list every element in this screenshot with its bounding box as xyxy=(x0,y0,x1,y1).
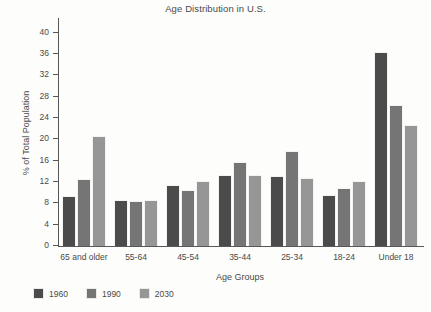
y-axis-tick-label: 32 xyxy=(40,68,49,81)
legend-swatch-icon xyxy=(86,288,97,299)
legend-label: 1990 xyxy=(102,289,121,299)
legend-item[interactable]: 1990 xyxy=(86,288,121,299)
bar xyxy=(337,188,351,246)
legend-label: 2030 xyxy=(155,289,174,299)
bar xyxy=(300,178,314,246)
y-axis-tick-label: 12 xyxy=(40,175,49,188)
legend-swatch-icon xyxy=(33,288,44,299)
y-axis-tick-label: 28 xyxy=(40,90,49,103)
y-axis-tick-label: 4 xyxy=(44,218,49,231)
legend-label: 1960 xyxy=(49,289,68,299)
y-axis-title: % of Total Population xyxy=(21,63,31,203)
bar xyxy=(233,162,247,246)
bar-chart: Age Distribution in U.S. % of Total Popu… xyxy=(0,0,431,312)
bar xyxy=(92,136,106,246)
bar xyxy=(62,196,76,246)
y-axis-tick-label: 36 xyxy=(40,47,49,60)
bar xyxy=(352,181,366,246)
x-axis-tick-label: 55-64 xyxy=(110,252,162,262)
x-axis-title: Age Groups xyxy=(58,272,422,282)
legend-item[interactable]: 1960 xyxy=(33,288,68,299)
y-axis-tick-label: 24 xyxy=(40,111,49,124)
bar-group xyxy=(166,22,210,246)
legend-item[interactable]: 2030 xyxy=(139,288,174,299)
plot-area xyxy=(58,22,422,246)
x-axis-tick-label: 25-34 xyxy=(266,252,318,262)
bar-group xyxy=(270,22,314,246)
x-axis-tick-label: 18-24 xyxy=(318,252,370,262)
bar xyxy=(389,105,403,246)
x-axis-tick-label: 35-44 xyxy=(214,252,266,262)
bar xyxy=(196,181,210,246)
bar-group xyxy=(322,22,366,246)
y-axis-tick-label: 0 xyxy=(44,239,49,252)
legend-swatch-icon xyxy=(139,288,150,299)
bar xyxy=(166,185,180,246)
y-axis-tick-label: 8 xyxy=(44,196,49,209)
bar-group xyxy=(114,22,158,246)
chart-title: Age Distribution in U.S. xyxy=(0,3,431,14)
y-axis-tick-label: 20 xyxy=(40,132,49,145)
bar-group xyxy=(62,22,106,246)
bar-group xyxy=(374,22,418,246)
bar xyxy=(144,200,158,246)
bar xyxy=(374,52,388,246)
bar xyxy=(181,190,195,246)
bar xyxy=(270,176,284,246)
bar xyxy=(285,151,299,246)
y-axis-tick-label: 16 xyxy=(40,154,49,167)
bar xyxy=(248,175,262,246)
bar-group xyxy=(218,22,262,246)
x-axis-line xyxy=(58,246,424,247)
bar xyxy=(218,175,232,246)
bar xyxy=(77,179,91,246)
bar xyxy=(404,125,418,246)
bar xyxy=(114,200,128,246)
chart-legend: 196019902030 xyxy=(33,288,174,299)
bar xyxy=(322,195,336,246)
bar xyxy=(129,201,143,246)
x-axis-tick-label: 45-54 xyxy=(162,252,214,262)
x-axis-tick-label: Under 18 xyxy=(370,252,422,262)
x-axis-tick-label: 65 and older xyxy=(58,252,110,262)
y-axis-tick-label: 40 xyxy=(40,26,49,39)
